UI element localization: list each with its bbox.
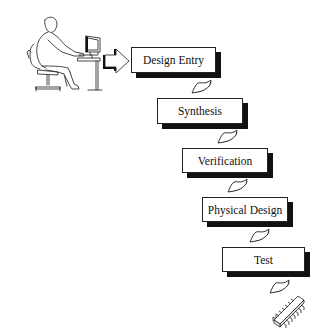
step-label: Synthesis <box>178 105 222 117</box>
step-synthesis: Synthesis <box>157 98 243 124</box>
step-label: Test <box>254 254 273 266</box>
design-flow-diagram: Design Entry Synthesis Verification Phys… <box>0 0 335 333</box>
curved-arrow-down-icon <box>248 228 272 244</box>
step-label: Verification <box>198 155 252 167</box>
curved-arrow-down-icon <box>190 79 214 95</box>
ic-chip-icon <box>270 290 312 330</box>
step-physical-design: Physical Design <box>202 197 288 222</box>
step-label: Physical Design <box>208 204 282 216</box>
curved-arrow-down-icon <box>226 178 250 194</box>
person-at-computer-icon <box>12 14 102 96</box>
block-arrow-right-icon <box>102 48 132 74</box>
step-label: Design Entry <box>143 54 204 66</box>
step-verification: Verification <box>182 148 268 173</box>
curved-arrow-down-icon <box>216 129 240 145</box>
step-design-entry: Design Entry <box>131 47 216 73</box>
step-test: Test <box>222 247 305 272</box>
